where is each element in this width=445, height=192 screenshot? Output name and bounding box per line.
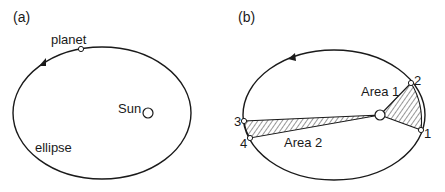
point-3-marker [241, 118, 246, 123]
sun-marker [375, 110, 385, 120]
panel-a-label: (a) [13, 9, 30, 25]
ellipse-label: ellipse [35, 140, 72, 155]
point-1-label: 1 [424, 126, 431, 141]
panel-b-label: (b) [238, 9, 255, 25]
direction-arrow-icon [288, 53, 296, 61]
orbit-ellipse [13, 47, 191, 179]
panel-a: (a) planet Sun ellipse [13, 9, 191, 179]
area-1-label: Area 1 [361, 84, 399, 99]
point-2-label: 2 [414, 73, 421, 88]
planet-marker [78, 46, 83, 51]
point-4-marker [247, 135, 252, 140]
point-2-marker [408, 80, 413, 85]
point-3-label: 3 [234, 114, 241, 129]
area-2-label: Area 2 [284, 135, 322, 150]
direction-arrow-icon [39, 58, 46, 66]
point-4-label: 4 [240, 136, 247, 151]
panel-b: (b) 1 2 3 4 Area 1 Area 2 [234, 9, 431, 180]
planet-label: planet [51, 32, 87, 47]
kepler-diagram: (a) planet Sun ellipse (b) 1 2 3 4 Area … [0, 0, 445, 192]
point-1-marker [418, 127, 423, 132]
sun-label: Sun [118, 101, 141, 116]
sun-marker [143, 108, 153, 118]
